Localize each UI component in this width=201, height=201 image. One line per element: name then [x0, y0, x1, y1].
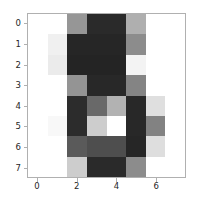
heatmap-cell — [28, 55, 48, 75]
heatmap-cell — [165, 75, 185, 95]
y-tick-mark — [24, 147, 28, 148]
matplotlib-figure: 012345670246 — [0, 0, 201, 201]
heatmap-cell — [28, 136, 48, 156]
heatmap-cell — [87, 157, 107, 177]
heatmap-cell — [107, 96, 127, 116]
x-tick-label: 0 — [27, 182, 47, 191]
x-tick-label: 2 — [67, 182, 87, 191]
heatmap-cell — [67, 14, 87, 34]
heatmap-cell — [146, 116, 166, 136]
heatmap-cell — [165, 34, 185, 54]
x-tick-label: 6 — [146, 182, 166, 191]
heatmap-image — [28, 14, 185, 177]
heatmap-cell — [107, 14, 127, 34]
y-tick-mark — [24, 85, 28, 86]
heatmap-axes — [27, 13, 186, 178]
heatmap-cell — [107, 75, 127, 95]
heatmap-cell — [67, 34, 87, 54]
y-tick-label: 4 — [5, 102, 21, 111]
heatmap-cell — [87, 116, 107, 136]
heatmap-cell — [87, 75, 107, 95]
heatmap-cell — [67, 55, 87, 75]
heatmap-cell — [67, 136, 87, 156]
heatmap-cell — [28, 75, 48, 95]
heatmap-cell — [165, 14, 185, 34]
heatmap-cell — [165, 116, 185, 136]
heatmap-cell — [126, 157, 146, 177]
heatmap-cell — [126, 55, 146, 75]
heatmap-cell — [146, 34, 166, 54]
heatmap-cell — [28, 96, 48, 116]
y-tick-label: 6 — [5, 143, 21, 152]
heatmap-cell — [146, 136, 166, 156]
heatmap-cell — [67, 75, 87, 95]
heatmap-cell — [107, 157, 127, 177]
heatmap-cell — [126, 116, 146, 136]
heatmap-cell — [107, 34, 127, 54]
heatmap-cell — [146, 75, 166, 95]
y-tick-mark — [24, 65, 28, 66]
heatmap-cell — [165, 96, 185, 116]
heatmap-cell — [107, 55, 127, 75]
y-tick-mark — [24, 106, 28, 107]
heatmap-cell — [165, 157, 185, 177]
heatmap-cell — [165, 55, 185, 75]
heatmap-cell — [146, 96, 166, 116]
heatmap-cell — [126, 75, 146, 95]
x-tick-mark — [156, 178, 157, 182]
heatmap-cell — [165, 136, 185, 156]
heatmap-cell — [67, 157, 87, 177]
heatmap-cell — [48, 75, 68, 95]
heatmap-cell — [67, 116, 87, 136]
heatmap-cell — [28, 157, 48, 177]
heatmap-cell — [28, 14, 48, 34]
y-tick-label: 3 — [5, 81, 21, 90]
y-tick-mark — [24, 168, 28, 169]
heatmap-cell — [107, 136, 127, 156]
heatmap-cell — [48, 34, 68, 54]
y-tick-mark — [24, 23, 28, 24]
heatmap-cell — [126, 136, 146, 156]
heatmap-cell — [146, 14, 166, 34]
heatmap-cell — [87, 136, 107, 156]
y-tick-mark — [24, 44, 28, 45]
y-tick-label: 2 — [5, 60, 21, 69]
heatmap-cell — [67, 96, 87, 116]
heatmap-cell — [28, 116, 48, 136]
heatmap-cell — [48, 55, 68, 75]
y-tick-label: 5 — [5, 122, 21, 131]
heatmap-cell — [107, 116, 127, 136]
x-tick-mark — [37, 178, 38, 182]
x-tick-mark — [77, 178, 78, 182]
heatmap-cell — [146, 55, 166, 75]
x-tick-mark — [116, 178, 117, 182]
heatmap-cell — [48, 116, 68, 136]
heatmap-cell — [48, 157, 68, 177]
heatmap-cell — [87, 96, 107, 116]
heatmap-cell — [126, 96, 146, 116]
y-tick-label: 7 — [5, 163, 21, 172]
x-tick-label: 4 — [106, 182, 126, 191]
y-tick-label: 1 — [5, 40, 21, 49]
heatmap-cell — [28, 34, 48, 54]
heatmap-cell — [48, 14, 68, 34]
heatmap-cell — [87, 34, 107, 54]
heatmap-cell — [126, 34, 146, 54]
y-tick-mark — [24, 126, 28, 127]
heatmap-cell — [126, 14, 146, 34]
heatmap-cell — [146, 157, 166, 177]
heatmap-cell — [87, 55, 107, 75]
heatmap-cell — [48, 136, 68, 156]
heatmap-cell — [87, 14, 107, 34]
heatmap-cell — [48, 96, 68, 116]
y-tick-label: 0 — [5, 19, 21, 28]
